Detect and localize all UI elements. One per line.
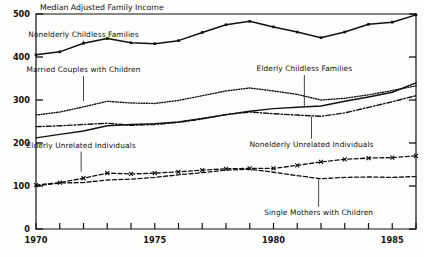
- series-line-5[interactable]: [36, 169, 416, 186]
- series-0-point-4: [130, 42, 133, 45]
- series-0-point-16: [415, 14, 418, 17]
- x-axis-label-1975: 1975: [138, 235, 172, 245]
- x-axis-label-1980: 1980: [257, 235, 291, 245]
- series-0-point-9: [248, 20, 251, 23]
- y-axis-label-100: 100: [4, 181, 30, 191]
- series-annotation-1: Married Couples with Children: [26, 65, 140, 74]
- series-0-point-11: [296, 31, 299, 34]
- series-annotation-5: Single Mothers with Children: [264, 208, 373, 217]
- series-annotation-0: Nonelderly Childless Families: [28, 30, 138, 39]
- x-axis-label-1985: 1985: [375, 235, 409, 245]
- series-0-point-13: [343, 31, 346, 34]
- y-axis-label-400: 400: [4, 52, 30, 62]
- chart-figure: Median Adjusted Family Income 0100200300…: [0, 0, 424, 257]
- x-axis-label-1970: 1970: [19, 235, 53, 245]
- y-axis-label-300: 300: [4, 95, 30, 105]
- series-0-point-7: [201, 31, 204, 34]
- series-0-point-1: [58, 51, 61, 54]
- series-0-point-14: [367, 23, 370, 26]
- series-annotation-2: Elderly Childless Families: [257, 64, 353, 73]
- series-0-point-8: [225, 23, 228, 26]
- series-line-4[interactable]: [36, 156, 416, 185]
- series-0-point-5: [153, 42, 156, 45]
- y-axis-label-0: 0: [4, 224, 30, 234]
- series-0-point-12: [320, 36, 323, 39]
- series-0-point-10: [272, 26, 275, 29]
- plot-frame: [36, 14, 416, 229]
- series-annotation-3: Elderly Unrelated Individuals: [27, 141, 136, 150]
- series-line-3[interactable]: [36, 96, 416, 127]
- series-line-1[interactable]: [36, 86, 416, 115]
- series-0-point-6: [177, 39, 180, 42]
- y-axis-label-500: 500: [4, 9, 30, 19]
- series-annotation-4: Nonelderly Unrelated Individuals: [249, 140, 373, 149]
- series-0-point-0: [35, 54, 38, 57]
- series-0-point-15: [391, 21, 394, 24]
